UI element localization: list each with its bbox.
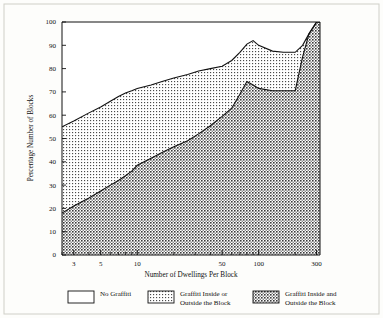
y-tick-label: 100 <box>46 18 57 26</box>
y-tick-label: 50 <box>49 135 57 143</box>
legend-label: Graffiti Inside or <box>180 290 228 298</box>
plot-area <box>62 22 320 255</box>
x-tick-label: 100 <box>253 260 264 268</box>
y-tick-label: 40 <box>49 158 57 166</box>
x-tick-label: 300 <box>311 260 322 268</box>
y-tick-label: 20 <box>49 205 57 213</box>
x-axis-title: Number of Dwellings Per Block <box>144 271 237 279</box>
y-axis-title: Percentage Number of Blocks <box>27 95 35 182</box>
legend-label: Graffiti Inside and <box>285 290 337 298</box>
x-tick-label: 3 <box>72 260 76 268</box>
x-tick-label: 50 <box>219 260 227 268</box>
y-tick-label: 90 <box>49 42 57 50</box>
legend-swatch <box>148 291 174 303</box>
x-tick-label: 10 <box>134 260 142 268</box>
x-tick-label: 5 <box>99 260 103 268</box>
legend-label: Outside the Block <box>285 299 336 307</box>
y-tick-label: 10 <box>49 228 57 236</box>
y-tick-label: 60 <box>49 112 57 120</box>
legend-swatch <box>68 291 94 303</box>
legend-swatch <box>253 291 279 303</box>
y-tick-label: 70 <box>49 88 57 96</box>
legend-label: Outside the Block <box>180 299 231 307</box>
y-tick-label: 80 <box>49 65 57 73</box>
graffiti-area-chart: 0102030405060708090100 351050100300 Perc… <box>0 0 383 318</box>
chart-page: 0102030405060708090100 351050100300 Perc… <box>0 0 383 318</box>
y-tick-label: 0 <box>53 251 57 259</box>
legend-label: No Graffiti <box>100 290 131 298</box>
y-tick-label: 30 <box>49 182 57 190</box>
